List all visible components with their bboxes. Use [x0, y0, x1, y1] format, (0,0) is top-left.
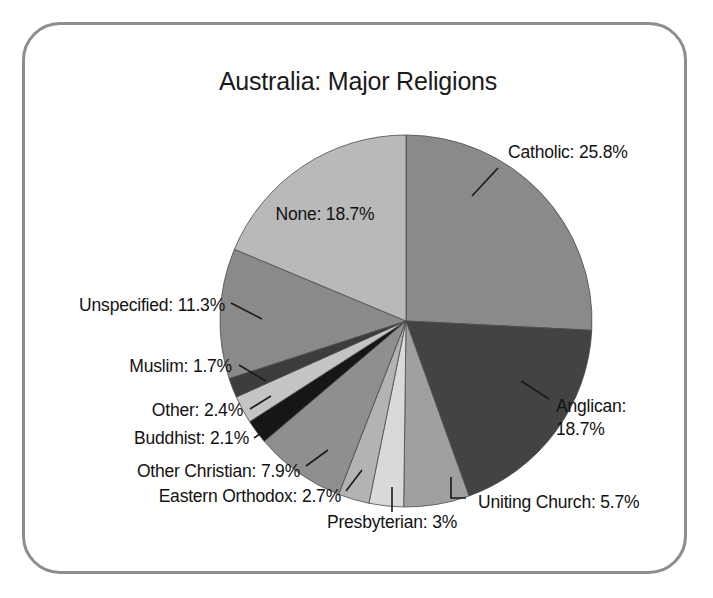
pie-slices	[220, 135, 592, 507]
chart-title: Australia: Major Religions	[219, 67, 497, 95]
slice-label-buddhist: Buddhist: 2.1%	[134, 428, 249, 448]
slice-label-eastern-orthodox: Eastern Orthodox: 2.7%	[159, 486, 341, 506]
slice-label-uniting-church: Uniting Church: 5.7%	[478, 492, 639, 512]
slice-label-presbyterian: Presbyterian: 3%	[327, 512, 457, 532]
slice-label-catholic: Catholic: 25.8%	[508, 142, 628, 162]
chart-page: Australia: Major Religions Catholic: 25.…	[0, 0, 713, 598]
pie-chart: Australia: Major Religions Catholic: 25.…	[0, 0, 713, 598]
slice-label-none: None: 18.7%	[276, 204, 375, 224]
slice-label-muslim: Muslim: 1.7%	[129, 356, 232, 376]
slice-label-other-christian: Other Christian: 7.9%	[137, 461, 300, 481]
slice-label-unspecified: Unspecified: 11.3%	[79, 295, 225, 315]
slice-label-anglican: Anglican:18.7%	[556, 396, 626, 439]
pie-slice-catholic[interactable]	[406, 135, 592, 330]
slice-label-other: Other: 2.4%	[152, 400, 243, 420]
